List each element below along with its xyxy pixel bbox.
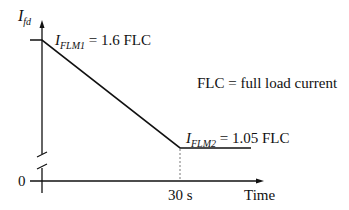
x-axis-arrow-icon [256, 179, 264, 184]
y-axis-arrow-icon [40, 20, 45, 28]
diagram-canvas [0, 0, 349, 210]
y-axis-label-sub: fd [23, 16, 31, 27]
flc-definition-note: FLC = full load current [197, 76, 337, 91]
annotation-iflm2-sub: FLM2 [191, 138, 216, 149]
origin-label: 0 [18, 174, 26, 189]
x-tick-30s: 30 s [168, 188, 193, 203]
annotation-iflm1: IFLM1 = 1.6 FLC [55, 33, 151, 48]
y-axis-label: Ifd [18, 8, 31, 24]
annotation-iflm2-value: = 1.05 FLC [216, 130, 289, 146]
annotation-iflm1-value: = 1.6 FLC [85, 32, 151, 48]
annotation-iflm2: IFLM2 = 1.05 FLC [186, 131, 289, 146]
x-axis-label: Time [244, 188, 275, 203]
annotation-iflm1-sub: FLM1 [60, 40, 85, 51]
